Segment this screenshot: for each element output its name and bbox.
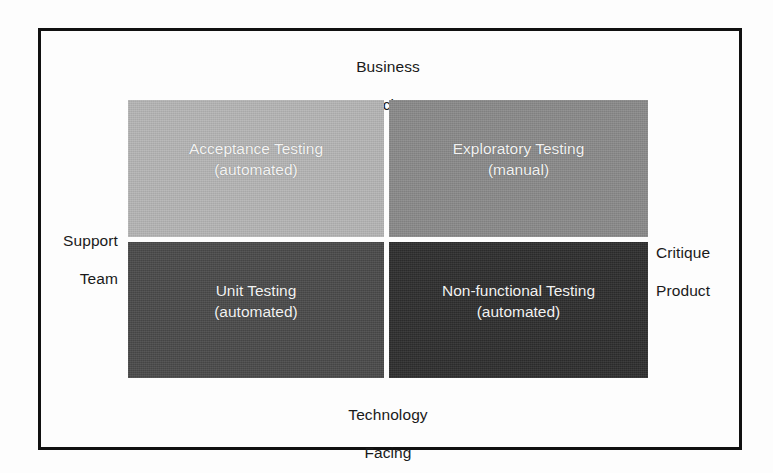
quadrant-exploratory-testing-title: Exploratory Testing (389, 138, 648, 159)
axis-label-top-line1: Business (268, 57, 508, 76)
axis-label-bottom: Technology Facing (268, 386, 508, 473)
quadrant-acceptance-testing-title: Acceptance Testing (128, 138, 384, 159)
quadrant-acceptance-testing-text: Acceptance Testing (automated) (128, 138, 384, 180)
quadrant-exploratory-testing-text: Exploratory Testing (manual) (389, 138, 648, 180)
quadrant-non-functional-testing: Non-functional Testing (automated) (389, 242, 648, 378)
diagram-page: Business Facing Technology Facing Suppor… (0, 0, 773, 473)
quadrant-acceptance-testing: Acceptance Testing (automated) (128, 100, 384, 237)
quadrant-exploratory-testing-subtitle: (manual) (389, 159, 648, 180)
quadrant-unit-testing: Unit Testing (automated) (128, 242, 384, 378)
axis-label-right-line1: Critique (656, 243, 760, 262)
quadrant-matrix: Acceptance Testing (automated) Explorato… (128, 100, 648, 378)
axis-label-bottom-line2: Facing (268, 443, 508, 462)
quadrant-unit-testing-text: Unit Testing (automated) (128, 280, 384, 322)
axis-label-right: Critique Product (656, 224, 760, 319)
quadrant-exploratory-testing: Exploratory Testing (manual) (389, 100, 648, 237)
axis-label-left-line2: Team (22, 269, 118, 288)
quadrant-non-functional-testing-subtitle: (automated) (389, 301, 648, 322)
axis-label-left: Support Team (22, 212, 118, 307)
quadrant-non-functional-testing-title: Non-functional Testing (389, 280, 648, 301)
axis-label-bottom-line1: Technology (268, 405, 508, 424)
quadrant-unit-testing-title: Unit Testing (128, 280, 384, 301)
axis-label-right-line2: Product (656, 281, 760, 300)
quadrant-non-functional-testing-text: Non-functional Testing (automated) (389, 280, 648, 322)
quadrant-unit-testing-subtitle: (automated) (128, 301, 384, 322)
quadrant-acceptance-testing-subtitle: (automated) (128, 159, 384, 180)
axis-label-left-line1: Support (22, 231, 118, 250)
